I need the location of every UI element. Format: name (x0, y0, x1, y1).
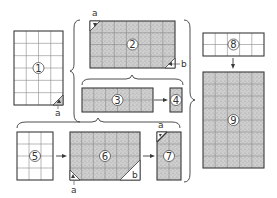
panel-8: 8 (203, 33, 264, 56)
panel-number-label: 3 (114, 95, 120, 106)
panel-number-label: 4 (173, 95, 179, 106)
arrow-5-to-6 (56, 154, 67, 158)
label-b: b (181, 59, 187, 69)
panel-number-label: 6 (102, 151, 108, 162)
panel-1: 1 (14, 31, 63, 105)
label-a: a (92, 8, 98, 18)
arrow-8-to-9 (231, 58, 235, 69)
arrow-6-to-7 (143, 154, 155, 158)
label-a: a (55, 108, 61, 118)
panel-number-label: 2 (129, 39, 135, 50)
brace-left-large (70, 20, 80, 122)
panel-2: 2 (90, 21, 175, 68)
panel-number-label: 9 (230, 115, 236, 126)
brace-top-bottom-row (17, 118, 180, 128)
panel-number-label: 8 (230, 39, 236, 50)
panel-3: 3 (82, 88, 153, 112)
label-a: a (158, 120, 164, 130)
panel-4: 4 (170, 88, 182, 112)
brace-right-large (184, 20, 195, 182)
panel-number-label: 1 (35, 63, 41, 74)
brace-top-panel3 (82, 75, 183, 85)
panel-number-label: 5 (32, 151, 38, 162)
panel-5: 5 (17, 132, 53, 180)
panel-9: 9 (203, 72, 264, 168)
label-a: a (71, 185, 77, 195)
label-b: b (132, 170, 138, 180)
folding-diagram: 123456789 a a b (0, 0, 277, 198)
arrow-3-to-4 (154, 98, 168, 102)
panel-number-label: 7 (166, 151, 172, 162)
